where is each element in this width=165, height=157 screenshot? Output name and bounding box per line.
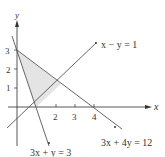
y-tick-label-3: 3	[5, 46, 10, 56]
x-axis-label: x	[153, 101, 159, 112]
line1-marker-icon	[95, 42, 97, 44]
y-tick-label-1: 1	[6, 83, 11, 93]
line3-marker-icon	[114, 126, 116, 128]
x-tick-label-2: 2	[53, 112, 58, 122]
y-axis-arrow-icon	[15, 20, 19, 27]
feasible-region-diagram: y x 1 2 3 2 3 4 x − y = 1 3x + y = 3 3x …	[0, 0, 165, 157]
line2-marker-icon	[48, 142, 50, 144]
y-tick-label-2: 2	[6, 65, 11, 75]
x-tick-label-4: 4	[92, 112, 97, 122]
line3-equation-label: 3x + 4y = 12	[101, 137, 152, 148]
x-axis-arrow-icon	[145, 105, 152, 109]
line2-equation-label: 3x + y = 3	[30, 147, 71, 157]
line1-equation-label: x − y = 1	[101, 39, 137, 50]
y-axis-label: y	[14, 10, 19, 20]
x-tick-label-3: 3	[72, 112, 77, 122]
